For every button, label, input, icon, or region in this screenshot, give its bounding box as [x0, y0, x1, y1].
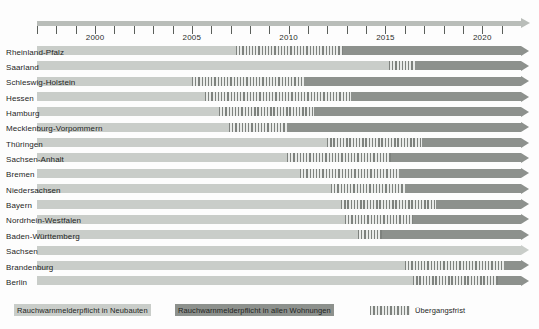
axis-year-label: 2015: [376, 33, 395, 42]
row-arrow-head: [521, 214, 529, 224]
row-bar-track: [37, 200, 529, 209]
state-row[interactable]: Hessen: [0, 90, 539, 105]
segment-uebergangsfrist: [192, 77, 304, 86]
row-arrow-head: [521, 46, 529, 56]
axis-bar: [37, 21, 521, 26]
state-row-label: Niedersachsen: [6, 185, 61, 194]
state-row[interactable]: Bayern: [0, 198, 539, 213]
axis-tick: [405, 26, 406, 34]
state-row[interactable]: Saarland: [0, 59, 539, 74]
row-arrow-head: [521, 61, 529, 71]
row-bar-track: [37, 215, 529, 224]
legend-item[interactable]: Rauchwarnmelderpflicht in allen Wohnunge…: [175, 299, 334, 321]
state-row-label: Rheinland-Pfalz: [6, 47, 64, 56]
state-row[interactable]: Nordrhein-Westfalen: [0, 213, 539, 228]
segment-uebergangsfrist: [345, 215, 413, 224]
chart-legend: Rauchwarnmelderpflicht in NeubautenRauch…: [0, 299, 539, 321]
state-row-label: Sachsen: [6, 247, 38, 256]
state-row-label: Hessen: [6, 93, 34, 102]
state-row[interactable]: Sachsen-Anhalt: [0, 151, 539, 166]
segment-uebergangsfrist: [413, 276, 498, 285]
timeline-chart: 20002005201020152020 Rheinland-PfalzSaar…: [0, 0, 539, 329]
row-bar-track: [37, 153, 529, 162]
row-bar-track: [37, 77, 529, 86]
axis-tick: [366, 26, 367, 34]
row-arrow-head: [521, 276, 529, 286]
segment-alle-wohnungen: [391, 153, 521, 162]
row-arrow-head: [521, 122, 529, 132]
axis-tick: [250, 26, 251, 34]
segment-alle-wohnungen: [314, 107, 521, 116]
axis-tick: [308, 26, 309, 34]
state-row-label: Nordrhein-Westfalen: [6, 216, 81, 225]
segment-neubauten: [37, 184, 331, 193]
axis-tick: [76, 26, 77, 34]
state-row[interactable]: Brandenburg: [0, 259, 539, 274]
axis-arrow-head: [521, 18, 530, 28]
segment-uebergangsfrist: [405, 261, 504, 270]
axis-tick: [269, 26, 270, 34]
segment-neubauten: [37, 276, 413, 285]
legend-label: Rauchwarnmelderpflicht in allen Wohnunge…: [175, 304, 334, 316]
state-row[interactable]: Hamburg: [0, 105, 539, 120]
row-arrow-head: [521, 76, 529, 86]
state-row-label: Mecklenburg-Vorpommern: [6, 124, 102, 133]
segment-uebergangsfrist: [229, 123, 287, 132]
state-row-label: Thüringen: [6, 139, 43, 148]
legend-item[interactable]: Rauchwarnmelderpflicht in Neubauten: [14, 299, 151, 321]
row-arrow-head: [521, 230, 529, 240]
axis-tick: [444, 26, 445, 34]
segment-neubauten: [37, 230, 358, 239]
state-row[interactable]: Bremen: [0, 167, 539, 182]
row-arrow-head: [521, 260, 529, 270]
state-rows: Rheinland-PfalzSaarlandSchleswig-Holstei…: [0, 44, 539, 294]
axis-tick: [211, 26, 212, 34]
state-row[interactable]: Sachsen: [0, 244, 539, 259]
segment-alle-wohnungen: [382, 230, 521, 239]
segment-alle-wohnungen: [287, 123, 521, 132]
row-bar-track: [37, 123, 529, 132]
segment-uebergangsfrist: [300, 169, 399, 178]
row-arrow-head: [521, 168, 529, 178]
row-bar-track: [37, 61, 529, 70]
segment-neubauten: [37, 169, 300, 178]
time-axis: 20002005201020152020: [0, 0, 539, 44]
legend-item[interactable]: Übergangsfrist: [370, 299, 465, 321]
state-row[interactable]: Berlin: [0, 274, 539, 289]
segment-uebergangsfrist: [236, 46, 342, 55]
segment-neubauten: [37, 246, 521, 255]
row-bar-track: [37, 92, 529, 101]
segment-uebergangsfrist: [331, 184, 405, 193]
state-row-label: Baden-Württemberg: [6, 231, 80, 240]
state-row[interactable]: Thüringen: [0, 136, 539, 151]
segment-alle-wohnungen: [351, 92, 521, 101]
row-bar-track: [37, 276, 529, 285]
state-row-label: Sachsen-Anhalt: [6, 155, 64, 164]
segment-neubauten: [37, 138, 327, 147]
row-arrow-head: [521, 138, 529, 148]
state-row[interactable]: Baden-Württemberg: [0, 228, 539, 243]
state-row[interactable]: Mecklenburg-Vorpommern: [0, 121, 539, 136]
state-row[interactable]: Schleswig-Holstein: [0, 75, 539, 90]
state-row-label: Berlin: [6, 277, 27, 286]
legend-label: Übergangsfrist: [415, 306, 465, 315]
row-bar-track: [37, 107, 529, 116]
segment-uebergangsfrist: [341, 200, 436, 209]
row-arrow-head: [521, 199, 529, 209]
segment-alle-wohnungen: [422, 138, 521, 147]
state-row-label: Brandenburg: [6, 262, 53, 271]
segment-uebergangsfrist: [327, 138, 422, 147]
axis-tick: [173, 26, 174, 34]
segment-alle-wohnungen: [498, 276, 521, 285]
segment-alle-wohnungen: [415, 61, 521, 70]
legend-label: Rauchwarnmelderpflicht in Neubauten: [14, 304, 151, 316]
row-bar-track: [37, 230, 529, 239]
row-bar-track: [37, 184, 529, 193]
segment-alle-wohnungen: [413, 215, 521, 224]
row-arrow-head: [521, 92, 529, 102]
axis-tick: [114, 26, 115, 34]
segment-neubauten: [37, 153, 287, 162]
segment-neubauten: [37, 46, 236, 55]
state-row[interactable]: Niedersachsen: [0, 182, 539, 197]
state-row[interactable]: Rheinland-Pfalz: [0, 44, 539, 59]
